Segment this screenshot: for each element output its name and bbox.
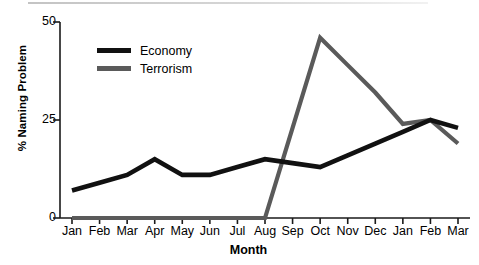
legend-item-economy: Economy	[97, 43, 192, 58]
x-tick-label: Mar	[441, 224, 475, 238]
legend-label-terrorism: Terrorism	[140, 62, 192, 76]
legend-label-economy: Economy	[140, 44, 192, 58]
legend-swatch-economy	[97, 48, 131, 53]
chart-container: % Naming Problem 50 25 0 JanFebMarAprMay…	[0, 0, 479, 265]
series-line-economy	[72, 120, 458, 191]
legend-item-terrorism: Terrorism	[97, 61, 192, 76]
x-axis-label: Month	[0, 243, 479, 257]
x-axis-label-text: Month	[230, 243, 267, 257]
legend-swatch-terrorism	[97, 66, 131, 71]
